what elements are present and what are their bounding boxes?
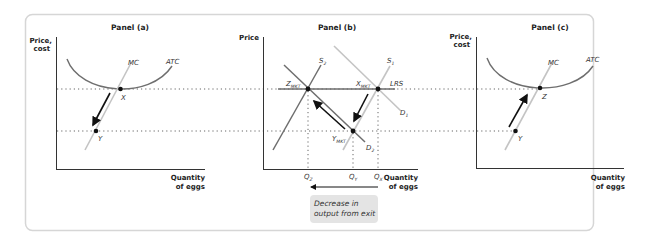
panel-a-x-label-2: of eggs bbox=[176, 183, 205, 191]
panel-b-x-label-2: of eggs bbox=[389, 183, 418, 191]
panel-c-y-label: Price, bbox=[449, 33, 472, 41]
panel-c-point-z bbox=[538, 86, 543, 91]
panel-c-mc-label: MC bbox=[548, 59, 559, 67]
panel-b-point-x-mkt bbox=[376, 87, 381, 92]
panel-c-point-y-label: Y bbox=[518, 135, 523, 143]
panel-c-point-z-label: Z bbox=[541, 93, 547, 101]
panel-c-x-label-2: of eggs bbox=[596, 183, 625, 191]
economics-diagram: Panel (a) Price, cost Quantity of eggs M… bbox=[0, 0, 656, 241]
panel-b-title: Panel (b) bbox=[318, 23, 356, 32]
panel-c-x-label: Quantity bbox=[591, 174, 626, 182]
panel-a-title: Panel (a) bbox=[111, 23, 149, 32]
figure-frame bbox=[26, 15, 594, 231]
panel-b-note-line2: output from exit bbox=[314, 209, 376, 218]
panel-c-atc-label: ATC bbox=[585, 56, 600, 64]
panel-b-point-y-mkt bbox=[351, 129, 356, 134]
panel-c-y-label-2: cost bbox=[454, 41, 471, 49]
panel-b-y-label: Price bbox=[239, 34, 259, 42]
panel-a-mc-label: MC bbox=[128, 59, 139, 67]
panel-b-lrs-label: LRS bbox=[390, 80, 404, 88]
panel-b-note-line1: Decrease in bbox=[314, 199, 359, 208]
panel-a-y-label: Price, bbox=[29, 37, 52, 45]
panel-a-point-y bbox=[94, 129, 99, 134]
panel-a-y-label-2: cost bbox=[34, 45, 51, 53]
panel-c-point-y bbox=[513, 129, 518, 134]
panel-a-point-x-label: X bbox=[120, 94, 126, 102]
panel-a-atc-label: ATC bbox=[165, 58, 180, 66]
panel-c-title: Panel (c) bbox=[531, 23, 568, 32]
panel-b-point-z-mkt bbox=[306, 87, 311, 92]
panel-a-x-label: Quantity bbox=[171, 174, 206, 182]
panel-b-x-label: Quantity bbox=[384, 174, 419, 182]
panel-a-point-x bbox=[118, 87, 123, 92]
panel-a-point-y-label: Y bbox=[98, 135, 103, 143]
